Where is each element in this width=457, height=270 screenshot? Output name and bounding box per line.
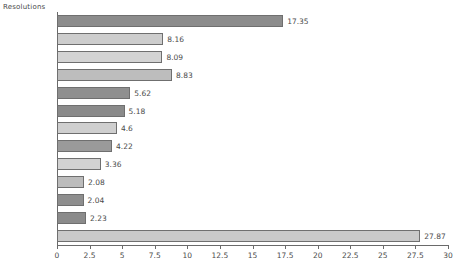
bar-row: 240x3202.08 [57,173,448,191]
x-axis-tick-label: 27.5 [407,251,424,260]
x-axis-tick [187,245,188,249]
x-axis-tick [318,245,319,249]
bar-row: 375x6674.22 [57,137,448,155]
bar-value-label: 17.35 [283,16,308,25]
x-axis-tick [415,245,416,249]
x-axis-tick [155,245,156,249]
plot-area: 360x64017.35768x10248.16320x5688.09480x8… [57,12,448,245]
bar-value-label: 8.83 [172,70,193,79]
x-axis-tick-label: 2.5 [84,251,96,260]
bar [57,69,172,81]
bar [57,194,84,206]
bar-value-label: 2.04 [84,196,105,205]
bar-row: 720x12804.6 [57,120,448,138]
x-axis-tick-label: 5 [120,251,125,260]
bar-row: 480x8542.23 [57,209,448,227]
bar-row: 320x4805.18 [57,102,448,120]
bar [57,33,163,45]
x-axis-tick [90,245,91,249]
bar-value-label: 3.36 [101,160,122,169]
bar [57,51,162,63]
x-axis-tick [350,245,351,249]
bar [57,212,86,224]
x-axis-tick-label: 15 [248,251,258,260]
bar [57,122,117,134]
bar-value-label: 5.18 [125,106,146,115]
x-axis-tick-label: 22.5 [342,251,359,260]
bar-row: 320x5688.09 [57,48,448,66]
x-axis-tick [383,245,384,249]
bar-row: 320x5343.36 [57,155,448,173]
bar-value-label: 4.22 [112,142,133,151]
bar [57,158,101,170]
bar-row: 540x9602.04 [57,191,448,209]
x-axis-tick-label: 12.5 [212,251,229,260]
bar-row: 360x64017.35 [57,12,448,30]
bar-value-label: 8.09 [162,52,183,61]
bar-value-label: 27.87 [420,232,445,241]
x-axis-tick-label: 17.5 [277,251,294,260]
bar [57,176,84,188]
bar-value-label: 2.08 [84,178,105,187]
x-axis-tick [285,245,286,249]
x-axis-tick [448,245,449,249]
bar-chart: Resolutions 360x64017.35768x10248.16320x… [0,0,457,270]
bar-row: others27.87 [57,227,448,245]
bar-row: 768x10248.16 [57,30,448,48]
y-axis-title: Resolutions [3,3,45,11]
x-axis-tick-label: 30 [443,251,453,260]
bar [57,230,420,242]
bar [57,105,125,117]
bar-value-label: 8.16 [163,34,184,43]
bar-row: 480x8008.83 [57,66,448,84]
x-axis-tick-label: 0 [55,251,60,260]
x-axis-tick [57,245,58,249]
bar-value-label: 2.23 [86,214,107,223]
x-axis-tick [220,245,221,249]
bar [57,15,283,27]
bar [57,140,112,152]
bar-value-label: 4.6 [117,124,133,133]
x-axis-tick-label: 20 [313,251,323,260]
x-axis-tick-label: 10 [183,251,193,260]
x-axis-tick-label: 25 [378,251,388,260]
bar [57,87,130,99]
x-axis-tick [253,245,254,249]
x-axis-tick [122,245,123,249]
bar-value-label: 5.62 [130,88,151,97]
x-axis-tick-label: 7.5 [149,251,161,260]
bar-row: unknown5.62 [57,84,448,102]
